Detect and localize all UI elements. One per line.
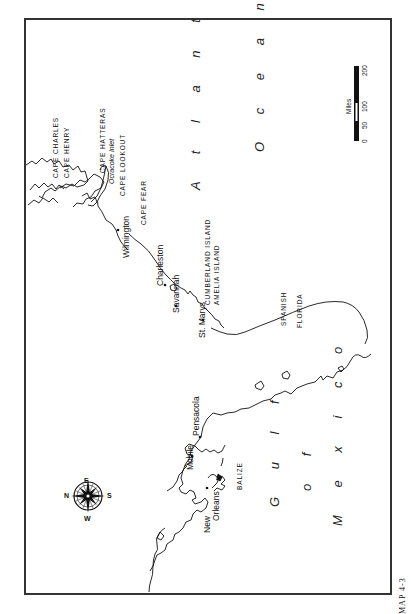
map-caption: MAP 4-3: [399, 577, 407, 614]
compass-s-label: S: [107, 492, 112, 499]
st-marys-label: St. Marys: [198, 302, 207, 338]
savannah-label: Savannah: [172, 275, 181, 313]
cape-hatteras-label: CAPE HATTERAS: [100, 108, 107, 173]
wilmington-label: Wilmington: [122, 216, 131, 258]
scale-tick-100: 100: [362, 101, 369, 112]
scale-tick-0: 0: [362, 139, 369, 143]
of-label: o f: [300, 441, 313, 491]
scale-tick-50: 50: [362, 122, 369, 129]
cape-charles-label: CAPE CHARLES: [53, 117, 60, 178]
ocean-label: O c e a n: [253, 0, 266, 152]
coastline-gulf-louisiana: [150, 466, 208, 571]
charleston-label: Charleston: [156, 245, 165, 286]
scale-bar: [354, 66, 359, 141]
coastline-florida-east: [245, 302, 368, 345]
florida-label: FLORIDA: [297, 294, 304, 328]
scale-unit-label: Miles: [346, 99, 353, 114]
amelia-island-label: AMELIA ISLAND: [214, 245, 221, 305]
cape-henry-label: CAPE HENRY: [64, 127, 71, 178]
scale-tick-200: 200: [362, 65, 369, 76]
pensacola-label: Pensacola: [192, 396, 201, 436]
mobile-label: Mobile: [186, 445, 195, 470]
cape-lookout-label: CAPE LOOKOUT: [120, 134, 127, 196]
compass-n-label: N: [64, 492, 69, 499]
cape-fear-label: CAPE FEAR: [141, 180, 148, 225]
atlantic-label: A t l a n t i c: [189, 0, 202, 190]
cumberland-island-label: CUMBERLAND ISLAND: [205, 219, 212, 305]
orleans-label: Orleans: [212, 491, 221, 521]
ocracoke-inlet-label: Ocracoke Inlet: [108, 139, 115, 184]
compass-e-label: E: [84, 477, 89, 484]
gulf-label: G u l f: [268, 388, 281, 507]
mexico-label: M e x i c o: [331, 335, 344, 526]
balize-label: BALIZE: [237, 462, 244, 490]
spanish-label: SPANISH: [281, 292, 288, 326]
compass-rose-icon: [71, 479, 105, 513]
compass-w-label: W: [84, 515, 91, 522]
